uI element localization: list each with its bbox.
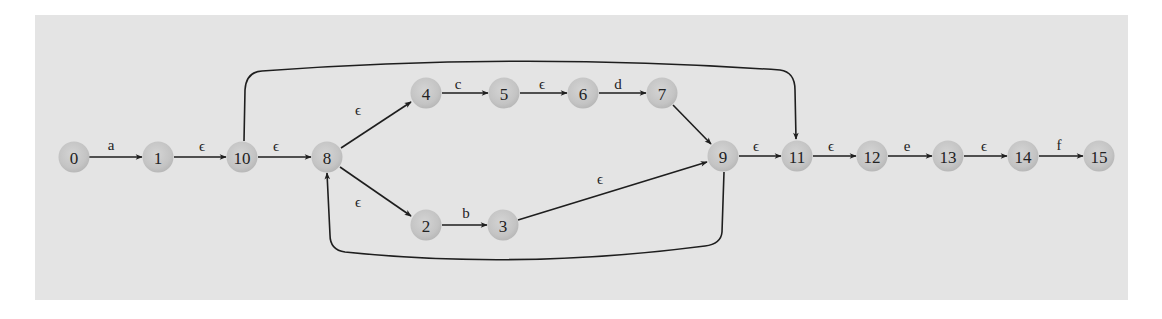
edge-label-2-3: b: [462, 205, 470, 221]
state-label: 8: [323, 149, 332, 168]
state-label: 15: [1091, 148, 1108, 167]
edge-label-3-9: ϵ: [597, 171, 603, 187]
edge-label-8-2: ϵ: [355, 194, 361, 210]
state-label: 11: [789, 148, 805, 167]
state-label: 6: [579, 85, 588, 104]
nfa-diagram: aϵϵϵcϵdϵbϵϵϵeϵf 0110845672391112131415: [0, 0, 1162, 319]
state-node-1: 1: [143, 142, 174, 173]
state-label: 12: [864, 148, 881, 167]
state-label: 14: [1015, 148, 1033, 167]
state-node-0: 0: [59, 142, 90, 173]
state-node-3: 3: [488, 210, 519, 241]
edge-label-10-8: ϵ: [273, 138, 279, 154]
edge-label-0-1: a: [108, 137, 115, 153]
state-node-14: 14: [1008, 141, 1039, 172]
state-label: 7: [658, 85, 667, 104]
state-node-2: 2: [411, 210, 442, 241]
state-label: 5: [500, 85, 509, 104]
state-label: 10: [234, 149, 251, 168]
edge-10-11-bypass: [244, 61, 796, 141]
state-node-5: 5: [489, 78, 520, 109]
edge-label-5-6: ϵ: [539, 76, 545, 92]
edge-label-4-5: c: [455, 76, 462, 92]
edge-9-8-loopback: [327, 172, 724, 260]
state-node-15: 15: [1084, 141, 1115, 172]
edge-label-9-11: ϵ: [753, 138, 759, 154]
state-node-10: 10: [227, 142, 258, 173]
edge-label-6-7: d: [614, 76, 622, 92]
state-node-11: 11: [782, 141, 813, 172]
state-label: 13: [940, 148, 957, 167]
state-label: 3: [499, 217, 508, 236]
state-node-7: 7: [647, 78, 678, 109]
edge-3-9: [518, 162, 707, 220]
state-label: 1: [154, 149, 163, 168]
state-node-6: 6: [568, 78, 599, 109]
edge-label-8-4: ϵ: [355, 102, 361, 118]
state-label: 4: [422, 85, 431, 104]
edge-label-12-13: e: [904, 138, 911, 154]
edge-7-9: [673, 105, 711, 144]
state-label: 0: [70, 149, 79, 168]
state-node-8: 8: [312, 142, 343, 173]
state-label: 9: [719, 148, 728, 167]
state-node-12: 12: [857, 141, 888, 172]
edge-label-1-10: ϵ: [199, 138, 205, 154]
state-node-4: 4: [411, 78, 442, 109]
edge-label-13-14: ϵ: [981, 138, 987, 154]
state-node-9: 9: [708, 141, 739, 172]
state-node-13: 13: [933, 141, 964, 172]
state-label: 2: [422, 217, 431, 236]
edge-label-11-12: ϵ: [828, 138, 834, 154]
edge-8-4: [341, 102, 411, 148]
edge-label-14-15: f: [1057, 137, 1062, 153]
edge-8-2: [340, 167, 411, 216]
